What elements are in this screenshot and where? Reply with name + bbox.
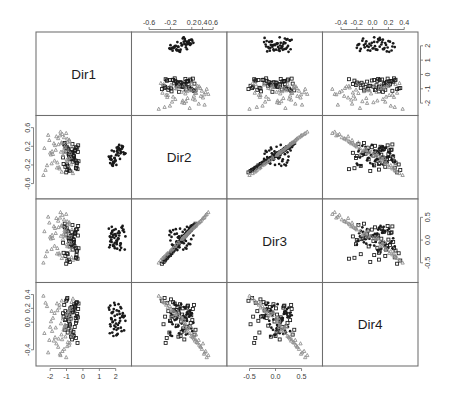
panel-dir2-dir2: Dir2 xyxy=(132,116,228,200)
data-point-group-1 xyxy=(119,317,122,320)
data-point-group-1 xyxy=(121,226,124,229)
tick-label: 0.0 xyxy=(368,18,378,27)
data-point-group-1 xyxy=(275,48,278,51)
data-point-group-1 xyxy=(114,319,117,322)
data-point-group-1 xyxy=(364,42,367,45)
data-point-group-1 xyxy=(276,303,279,306)
panel-border xyxy=(132,32,228,116)
data-point-group-1 xyxy=(376,41,379,44)
data-point-group-1 xyxy=(380,43,383,46)
data-point-group-1 xyxy=(111,331,114,334)
data-point-group-1 xyxy=(118,144,121,147)
data-point-group-1 xyxy=(115,164,118,167)
data-point-group-1 xyxy=(192,234,195,237)
data-point-group-1 xyxy=(186,48,189,51)
tick-label: 0 xyxy=(81,372,85,381)
data-point-group-1 xyxy=(179,48,182,51)
panel-dir1-dir1: Dir1 xyxy=(36,32,132,116)
data-point-group-1 xyxy=(112,308,115,311)
panel-grid: Dir1Dir2Dir3Dir4 xyxy=(36,32,418,366)
data-point-group-1 xyxy=(191,330,194,333)
data-point-group-1 xyxy=(287,50,290,53)
data-point-group-1 xyxy=(123,329,126,332)
panel-dir3-dir4 xyxy=(323,199,419,283)
data-point-group-1 xyxy=(184,228,187,231)
tick-label: 0.6 xyxy=(23,123,32,133)
tick-label: 0.0 xyxy=(23,317,32,327)
data-point-group-1 xyxy=(109,304,112,307)
data-point-group-1 xyxy=(120,246,123,249)
data-point-group-1 xyxy=(289,330,292,333)
data-point-group-1 xyxy=(366,45,369,48)
data-point-group-1 xyxy=(369,49,372,52)
axis-right-row1: 210-1-2 xyxy=(421,44,433,107)
data-point-group-1 xyxy=(111,321,114,324)
data-point-group-1 xyxy=(117,303,120,306)
tick-label: 0.2 xyxy=(383,18,393,27)
tick-label: -0.2 xyxy=(23,159,32,171)
diagonal-label-dir4: Dir4 xyxy=(358,317,383,332)
data-point-group-1 xyxy=(386,46,389,49)
data-point-group-1 xyxy=(289,48,292,51)
data-point-group-1 xyxy=(174,228,177,231)
data-point-group-1 xyxy=(190,238,193,241)
data-point-group-1 xyxy=(118,313,121,316)
data-point-group-1 xyxy=(387,40,390,43)
data-point-group-1 xyxy=(192,41,195,44)
data-point-group-1 xyxy=(176,41,179,44)
data-point-group-1 xyxy=(184,246,187,249)
tick-label: 0.4 xyxy=(399,18,409,27)
data-point-group-1 xyxy=(115,239,118,242)
data-point-group-1 xyxy=(110,238,113,241)
data-point-group-1 xyxy=(112,245,115,248)
data-point-group-1 xyxy=(362,37,365,40)
data-point-group-1 xyxy=(172,229,175,232)
data-point-group-1 xyxy=(170,236,173,239)
tick-label: -0.5 xyxy=(423,257,432,269)
data-point-group-1 xyxy=(169,230,172,233)
data-point-group-1 xyxy=(117,327,120,330)
panel-dir2-dir4 xyxy=(323,116,419,200)
data-point-group-1 xyxy=(390,49,393,52)
panel-dir1-dir4 xyxy=(323,32,419,116)
tick-label: -0.6 xyxy=(143,18,155,27)
data-point-group-1 xyxy=(110,155,113,158)
data-point-group-1 xyxy=(113,233,116,236)
data-point-group-1 xyxy=(280,46,283,49)
data-point-group-1 xyxy=(263,152,266,155)
data-point-group-1 xyxy=(378,45,381,48)
data-point-group-1 xyxy=(117,237,120,240)
data-point-group-1 xyxy=(287,159,290,162)
data-point-group-1 xyxy=(111,236,114,239)
data-point-group-1 xyxy=(266,50,269,53)
data-point-group-1 xyxy=(114,228,117,231)
data-point-group-1 xyxy=(109,158,112,161)
data-point-group-1 xyxy=(268,49,271,52)
data-point-group-1 xyxy=(279,41,282,44)
data-point-group-1 xyxy=(110,226,113,229)
diagonal-label-dir3: Dir3 xyxy=(262,234,287,249)
tick-label: 0.0 xyxy=(423,235,432,245)
data-point-group-1 xyxy=(177,45,180,48)
data-point-group-1 xyxy=(109,244,112,247)
tick-label: 0.2 xyxy=(23,303,32,313)
data-point-group-1 xyxy=(275,145,278,148)
data-point-group-1 xyxy=(111,230,114,233)
data-point-group-1 xyxy=(108,308,111,311)
panel-dir1-dir3 xyxy=(227,32,323,116)
data-point-group-1 xyxy=(373,244,376,247)
panel-dir3-dir1 xyxy=(36,199,132,283)
data-point-group-1 xyxy=(119,326,122,329)
data-point-group-1 xyxy=(173,233,176,236)
data-point-group-1 xyxy=(278,163,281,166)
data-point-group-1 xyxy=(361,226,364,229)
tick-label: -0.4 xyxy=(23,344,32,356)
data-point-group-1 xyxy=(124,152,127,155)
data-point-group-1 xyxy=(388,50,391,53)
data-point-group-1 xyxy=(113,301,116,304)
data-point-group-1 xyxy=(287,45,290,48)
panel-dir2-dir1 xyxy=(36,116,132,200)
data-point-group-1 xyxy=(281,160,284,163)
data-point-group-1 xyxy=(371,47,374,50)
data-point-group-1 xyxy=(278,47,281,50)
